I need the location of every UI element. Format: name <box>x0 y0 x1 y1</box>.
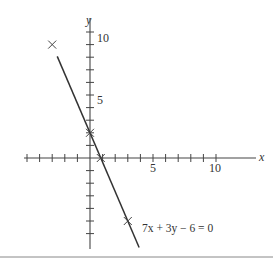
x-axis-label: x <box>258 150 265 164</box>
axes <box>24 18 256 249</box>
equation-label: 7x + 3y − 6 = 0 <box>142 222 213 235</box>
y-axis-label: y <box>85 13 92 27</box>
ticks <box>27 32 216 234</box>
y-tick-label-10: 10 <box>97 31 109 45</box>
x-tick-label-10: 10 <box>209 161 221 175</box>
y-tick-label-5: 5 <box>97 93 103 107</box>
graph: x y 5 10 5 10 7x + 3y − 6 = 0 <box>0 0 273 266</box>
x-tick-label-5: 5 <box>150 161 156 175</box>
line-7x-3y-6 <box>57 56 139 247</box>
